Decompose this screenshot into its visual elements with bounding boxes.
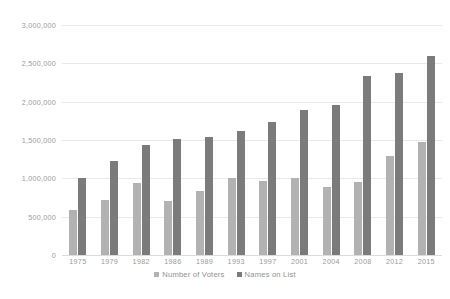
x-tick-label-1993: 1993 bbox=[220, 257, 252, 266]
x-axis-labels: 1975197919821986198919931997200120042008… bbox=[62, 257, 442, 266]
x-tick-label-1982: 1982 bbox=[125, 257, 157, 266]
bar-2004-voters[interactable] bbox=[323, 187, 331, 255]
bar-1997-names[interactable] bbox=[268, 122, 276, 255]
bar-group-1989 bbox=[189, 25, 221, 255]
x-tick-label-1975: 1975 bbox=[62, 257, 94, 266]
bar-1993-voters[interactable] bbox=[228, 178, 236, 255]
bar-group-2015 bbox=[410, 25, 442, 255]
bar-2001-names[interactable] bbox=[300, 110, 308, 255]
bar-2001-voters[interactable] bbox=[291, 178, 299, 255]
x-tick-label-1989: 1989 bbox=[189, 257, 221, 266]
legend-label: Number of Voters bbox=[162, 270, 224, 279]
bar-1989-voters[interactable] bbox=[196, 191, 204, 255]
bar-1982-voters[interactable] bbox=[133, 183, 141, 255]
bar-group-2004 bbox=[315, 25, 347, 255]
bar-1997-voters[interactable] bbox=[259, 181, 267, 255]
x-tick-label-1986: 1986 bbox=[157, 257, 189, 266]
y-tick-label: 0 bbox=[52, 251, 56, 260]
bar-2004-names[interactable] bbox=[332, 105, 340, 255]
x-tick-label-1997: 1997 bbox=[252, 257, 284, 266]
bar-1979-names[interactable] bbox=[110, 161, 118, 255]
bar-1986-names[interactable] bbox=[173, 139, 181, 255]
x-tick-label-2012: 2012 bbox=[379, 257, 411, 266]
legend-item[interactable]: Names on List bbox=[237, 270, 296, 279]
bar-group-1997 bbox=[252, 25, 284, 255]
x-tick-label-2001: 2001 bbox=[284, 257, 316, 266]
y-tick-label: 2,500,000 bbox=[22, 59, 56, 68]
bar-groups bbox=[62, 25, 442, 255]
y-tick-label: 1,500,000 bbox=[22, 136, 56, 145]
bar-group-1979 bbox=[94, 25, 126, 255]
bar-2008-voters[interactable] bbox=[354, 182, 362, 255]
legend-swatch-icon bbox=[237, 272, 242, 277]
y-axis-labels: 0500,0001,000,0001,500,0002,000,0002,500… bbox=[0, 25, 56, 255]
gridline-0 bbox=[62, 255, 442, 256]
y-tick-label: 3,000,000 bbox=[22, 21, 56, 30]
bar-2008-names[interactable] bbox=[363, 76, 371, 255]
bar-1975-voters[interactable] bbox=[69, 210, 77, 255]
y-tick-label: 500,000 bbox=[28, 212, 56, 221]
y-tick-label: 1,000,000 bbox=[22, 174, 56, 183]
bar-group-1993 bbox=[220, 25, 252, 255]
bar-group-1982 bbox=[125, 25, 157, 255]
chart-legend: Number of VotersNames on List bbox=[0, 270, 450, 279]
x-tick-label-2008: 2008 bbox=[347, 257, 379, 266]
bar-chart: 0500,0001,000,0001,500,0002,000,0002,500… bbox=[0, 0, 450, 299]
legend-swatch-icon bbox=[154, 272, 159, 277]
bar-group-2012 bbox=[379, 25, 411, 255]
x-tick-label-1979: 1979 bbox=[94, 257, 126, 266]
bar-2015-names[interactable] bbox=[427, 56, 435, 255]
bar-group-2001 bbox=[284, 25, 316, 255]
bar-group-1975 bbox=[62, 25, 94, 255]
bar-2015-voters[interactable] bbox=[418, 142, 426, 255]
bar-2012-voters[interactable] bbox=[386, 156, 394, 255]
bar-1982-names[interactable] bbox=[142, 145, 150, 255]
bar-1993-names[interactable] bbox=[237, 131, 245, 255]
bar-group-1986 bbox=[157, 25, 189, 255]
bar-1975-names[interactable] bbox=[78, 178, 86, 255]
bar-1986-voters[interactable] bbox=[164, 201, 172, 255]
legend-label: Names on List bbox=[245, 270, 296, 279]
bar-1979-voters[interactable] bbox=[101, 200, 109, 255]
bar-group-2008 bbox=[347, 25, 379, 255]
x-tick-label-2004: 2004 bbox=[315, 257, 347, 266]
x-tick-label-2015: 2015 bbox=[410, 257, 442, 266]
y-tick-label: 2,000,000 bbox=[22, 97, 56, 106]
bar-1989-names[interactable] bbox=[205, 137, 213, 255]
bar-2012-names[interactable] bbox=[395, 73, 403, 255]
legend-item[interactable]: Number of Voters bbox=[154, 270, 224, 279]
